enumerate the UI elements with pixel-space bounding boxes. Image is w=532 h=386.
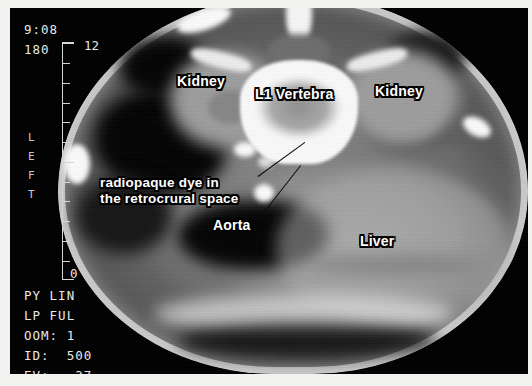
annotation-liver: Liver <box>360 233 394 249</box>
orientation-letter-e: E <box>28 147 36 166</box>
scale-tick <box>63 182 70 183</box>
annotation-kidney-left: Kidney <box>177 73 225 89</box>
scale-tick <box>63 63 70 64</box>
console-row-copy-mode: PY LIN <box>24 288 75 303</box>
console-angle: 180 <box>24 42 50 57</box>
scale-tick <box>63 241 70 242</box>
scale-tick <box>63 43 74 44</box>
l1-vertebral-body <box>240 60 358 164</box>
ct-image-frame: 9:08 180 L E F T 12 0 PY LIN LP FUL <box>10 8 528 374</box>
console-row-window-level: EV: 37 <box>24 368 92 374</box>
orientation-letter-l: L <box>28 128 36 147</box>
annotation-aorta: Aorta <box>213 217 251 233</box>
aorta-contrast <box>254 184 274 202</box>
hepatic-vessel <box>308 256 478 274</box>
scale-tick <box>63 221 70 222</box>
scale-tick <box>63 122 70 123</box>
console-row-window-width: ID: 500 <box>24 348 92 363</box>
screenshot-viewport: 9:08 180 L E F T 12 0 PY LIN LP FUL <box>0 0 532 386</box>
orientation-marker-left: L E F T <box>28 128 36 204</box>
anterior-fat-shadow <box>178 324 438 358</box>
scale-tick <box>63 83 70 84</box>
console-row-display-mode: LP FUL <box>24 308 75 323</box>
scale-tick <box>63 162 74 163</box>
scale-tick <box>63 142 70 143</box>
annotation-retrocrural-dye: radiopaque dye in the retrocrural space <box>100 175 239 207</box>
scale-top-value: 12 <box>84 38 99 53</box>
scale-tick <box>63 261 70 262</box>
scale-tick <box>63 103 70 104</box>
console-row-zoom: OOM: 1 <box>24 328 75 343</box>
annotation-l1-vertebra: L1 Vertebra <box>255 86 333 102</box>
scale-bottom-value: 0 <box>70 266 78 281</box>
ct-scale-bar <box>62 42 74 280</box>
scale-tick <box>63 201 70 202</box>
orientation-letter-t: T <box>28 185 36 204</box>
console-time: 9:08 <box>24 22 58 37</box>
orientation-letter-f: F <box>28 166 36 185</box>
annotation-kidney-right: Kidney <box>375 83 423 99</box>
